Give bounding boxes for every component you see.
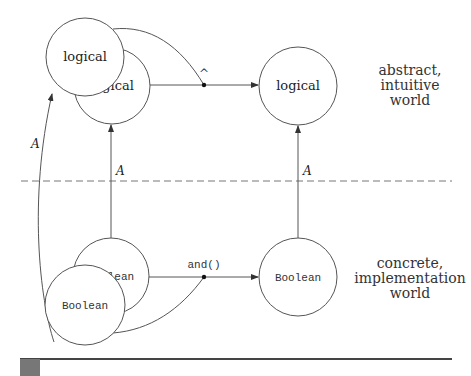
mapping-label-right: A: [302, 164, 312, 178]
concrete-node-front-label: Boolean: [62, 300, 108, 312]
abstract-world-line1: abstract,: [378, 62, 441, 78]
mapping-label-middle: A: [115, 164, 125, 178]
footer-marker: [20, 359, 40, 376]
concrete-node-front: Boolean: [45, 265, 125, 345]
abstract-node-front-label: logical: [63, 49, 107, 64]
concrete-world-line1: concrete,: [377, 255, 443, 271]
abstract-world-line2: intuitive: [381, 77, 440, 93]
concrete-operator-label: and(): [187, 259, 220, 271]
abstract-world-line3: world: [390, 92, 431, 108]
concrete-junction-dot: [202, 275, 206, 279]
abstract-node-right-label: logical: [276, 78, 320, 93]
abstract-junction-dot: [202, 83, 206, 87]
abstract-node-right: logical: [259, 47, 337, 125]
concrete-world-line2: implementation: [354, 270, 466, 286]
abstraction-diagram: logical logical ^ logical abstract, intu…: [0, 0, 471, 376]
concrete-node-right-label: Boolean: [275, 272, 321, 284]
concrete-world-line3: world: [390, 285, 431, 301]
abstract-operator-label: ^: [199, 67, 209, 81]
footer-rule: [20, 358, 452, 360]
mapping-label-left: A: [30, 137, 40, 151]
concrete-node-right: Boolean: [259, 238, 337, 316]
abstract-node-front: logical: [46, 18, 124, 96]
